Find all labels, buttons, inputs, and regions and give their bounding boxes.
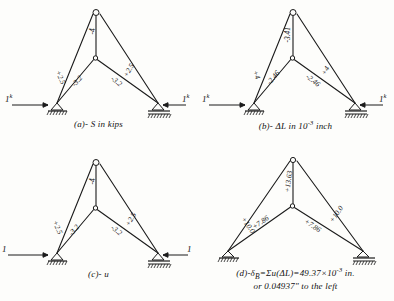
panel-caption-d-line1: (d)-δB=Σu(ΔL)=49.37×10-3 in. (197, 266, 394, 281)
joint-apex (290, 10, 296, 16)
joint-center (93, 206, 97, 210)
support-left (47, 103, 67, 115)
support-left (218, 251, 239, 262)
panel-caption-c: (c)- u (0, 269, 197, 280)
load-label-right: 1k (379, 92, 386, 104)
member-right-top (297, 14, 355, 103)
joint-center (290, 56, 294, 60)
panel-d: +10.0 +7.86 +10.0 +7.86 +13.63 (d)-δB=Σu… (197, 150, 394, 300)
member-right-top (100, 14, 158, 103)
joint-center (290, 204, 294, 208)
load-arrow-right (163, 253, 188, 258)
load-label-right: 1k (182, 92, 189, 104)
joint-center (93, 56, 97, 60)
joint-apex (93, 10, 99, 16)
load-label-left: 1 (2, 242, 7, 254)
support-right (353, 251, 376, 265)
panel-caption-d-line2: or 0.04937" to the left (197, 281, 394, 292)
load-label-left: 1k (5, 92, 12, 104)
figure-grid: +2.5 -3.2 +2.5 -3.2 -4 1k 1k (a)- S in k… (0, 0, 394, 301)
load-arrow-left (8, 253, 48, 258)
member-label-vertical: -4 (88, 28, 97, 34)
load-arrow-left (209, 103, 245, 108)
member-right-bottom (292, 206, 363, 251)
member-left-bottom (228, 206, 292, 251)
panel-a: +2.5 -3.2 +2.5 -3.2 -4 1k 1k (a)- S in k… (0, 0, 197, 150)
panel-b: +4 -2.46 +4 -2.46 -3.41 1k 1k (b)- ΔL in… (197, 0, 394, 150)
load-label-left: 1k (202, 92, 209, 104)
member-right-top (100, 164, 158, 253)
panel-caption-a: (a)- S in kips (0, 119, 197, 130)
member-right-top (297, 161, 363, 251)
load-arrow-left (12, 103, 48, 108)
panel-caption-d: (d)-δB=Σu(ΔL)=49.37×10-3 in. or 0.04937"… (197, 266, 394, 292)
support-left (47, 253, 67, 265)
member-label-vertical: -4 (88, 178, 97, 184)
panel-caption-b: (b)- ΔL in 10-3 inch (197, 119, 394, 132)
member-label-vertical: -3.41 (283, 27, 292, 43)
member-left-top (228, 161, 290, 251)
joint-apex (93, 160, 99, 166)
panel-c: +2.5 -3.2 +2.5 -3.2 -4 1 1 (c)- u (0, 150, 197, 300)
load-label-right: 1 (187, 242, 192, 254)
joint-apex (290, 157, 295, 162)
support-left (244, 103, 264, 115)
